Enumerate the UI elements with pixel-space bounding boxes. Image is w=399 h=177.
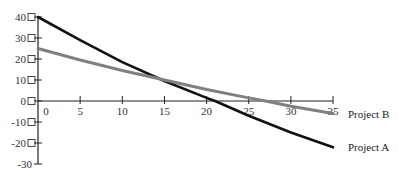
y-tick-label: 10 (15, 74, 27, 86)
y-tick-label: 0 (21, 95, 27, 107)
x-tick-label: 20 (201, 105, 213, 117)
y-tick-label: 40 (15, 11, 27, 23)
y-tick-marker (28, 98, 35, 105)
legend: Project AProject B (348, 108, 389, 154)
y-tick-marker (28, 56, 35, 63)
y-tick-marker (28, 140, 35, 147)
x-tick-label: 0 (43, 105, 49, 117)
x-tick-label: 10 (117, 105, 129, 117)
y-tick-label: -10 (11, 116, 26, 128)
x-tick-label: 15 (159, 105, 171, 117)
y-tick-marker (28, 77, 35, 84)
y-tick-marker (28, 119, 35, 126)
y-axis: 403020100-10-20-30 (11, 11, 42, 170)
y-tick-label: -30 (17, 158, 32, 170)
y-tick-label: -20 (11, 137, 26, 149)
y-tick-label: 30 (15, 32, 27, 44)
legend-label-project-b: Project B (348, 108, 389, 120)
x-tick-label: 35 (328, 105, 340, 117)
series-line-project-b (38, 49, 333, 114)
legend-label-project-a: Project A (348, 141, 389, 153)
x-tick-label: 5 (77, 105, 83, 117)
y-tick-marker (28, 35, 35, 42)
series-line-project-a (38, 17, 333, 147)
npv-profile-chart: 403020100-10-20-30 05101520253035 Projec… (0, 0, 399, 177)
y-tick-label: 20 (15, 53, 27, 65)
series-layer (38, 17, 333, 147)
y-tick-marker (28, 14, 35, 21)
